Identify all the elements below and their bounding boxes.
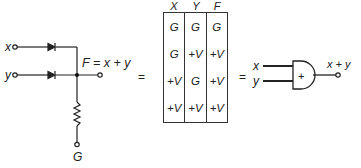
- gate-output-terminal-icon: [336, 73, 340, 77]
- cell: G: [191, 21, 200, 33]
- column-x: G G +V +V: [164, 13, 185, 122]
- cell: G: [170, 21, 179, 33]
- column-f: G +V +V +V: [207, 13, 227, 122]
- equals-sign-2: =: [239, 71, 246, 83]
- gate-input-y-label: y: [253, 75, 259, 87]
- ground-terminal-icon: [75, 142, 79, 146]
- cell: G: [212, 21, 221, 33]
- cell: +V: [210, 102, 224, 114]
- cell: +V: [188, 102, 202, 114]
- cell: +V: [167, 102, 181, 114]
- resistor-icon: [74, 102, 80, 126]
- cell: +V: [167, 75, 181, 87]
- y-terminal-icon: [13, 73, 17, 77]
- diode-x-icon: [48, 44, 55, 51]
- ground-label: G: [73, 151, 82, 163]
- equals-sign-1: =: [138, 71, 145, 83]
- gate-symbol: +: [298, 70, 304, 82]
- cell: G: [170, 48, 179, 60]
- junction-dot-icon: [75, 73, 79, 77]
- diode-y-icon: [48, 72, 55, 79]
- input-x-label: x: [5, 41, 11, 53]
- cell: +V: [210, 48, 224, 60]
- input-y-label: y: [5, 69, 11, 81]
- gate-input-x-label: x: [253, 60, 259, 72]
- cell: +V: [188, 48, 202, 60]
- output-terminal-icon: [98, 73, 102, 77]
- column-y: G +V G +V: [185, 13, 206, 122]
- cell: +V: [210, 75, 224, 87]
- output-expression: F = x + y: [82, 57, 130, 69]
- truth-table: G G +V +V G +V G +V G +V +V +V: [163, 12, 228, 123]
- header-y: Y: [185, 0, 207, 12]
- header-f: F: [206, 0, 228, 12]
- gate-output-label: x + y: [327, 58, 351, 70]
- cell: G: [191, 75, 200, 87]
- header-x: X: [163, 0, 185, 12]
- x-terminal-icon: [13, 45, 17, 49]
